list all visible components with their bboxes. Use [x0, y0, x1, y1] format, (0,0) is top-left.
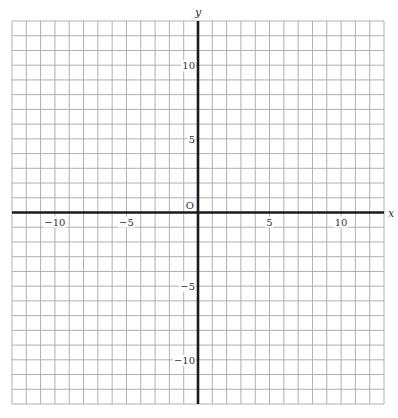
y-tick-label: −5 — [180, 281, 195, 292]
y-axis-label: y — [194, 6, 202, 19]
x-axis-label: x — [388, 207, 395, 220]
coordinate-plane: −10−5510105−5−10 O x y — [0, 0, 398, 418]
x-tick-label: 5 — [266, 217, 272, 228]
axes — [12, 21, 384, 404]
y-tick-label: −10 — [174, 355, 195, 366]
x-tick-label: −10 — [44, 217, 65, 228]
x-tick-label: −5 — [119, 217, 134, 228]
origin-label: O — [186, 200, 194, 211]
y-tick-label: 10 — [182, 60, 195, 71]
x-tick-label: 10 — [335, 217, 348, 228]
y-tick-label: 5 — [189, 134, 195, 145]
